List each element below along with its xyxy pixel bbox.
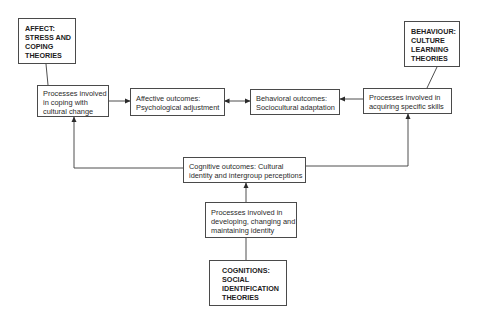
connector-behaviour-skills xyxy=(427,67,437,88)
box-text: BEHAVIOUR: xyxy=(411,27,453,36)
box-text: THEORIES xyxy=(25,51,69,60)
box-text: Processes involved xyxy=(43,89,103,98)
affect-theory-box: AFFECT: STRESS AND COPING THEORIES xyxy=(18,18,76,64)
box-text: CULTURE xyxy=(411,36,453,45)
arrow-cognitive-coping xyxy=(74,117,183,168)
box-text: COGNITIONS: xyxy=(222,266,280,275)
box-text: IDENTIFICATION xyxy=(222,284,280,293)
box-text: THEORIES xyxy=(222,293,280,302)
behavioral-outcome-box: Behavioral outcomes: Sociocultural adapt… xyxy=(250,89,340,115)
box-text: in coping with xyxy=(43,98,103,107)
box-text: COPING xyxy=(25,42,69,51)
box-text: cultural change xyxy=(43,107,103,116)
arrow-cognitive-skills xyxy=(306,114,408,166)
cognitive-outcome-box: Cognitive outcomes: Cultural identity an… xyxy=(183,157,306,183)
box-text: SOCIAL xyxy=(222,275,280,284)
connector-affect-coping xyxy=(46,64,48,85)
box-text: LEARNING xyxy=(411,45,453,54)
box-text: identity and intergroup perceptions xyxy=(189,171,300,180)
box-text: Behavioral outcomes: xyxy=(256,94,334,103)
cognitions-theory-box: COGNITIONS: SOCIAL IDENTIFICATION THEORI… xyxy=(209,260,287,306)
skills-process-box: Processes involved in acquiring specific… xyxy=(363,88,452,114)
box-text: AFFECT: xyxy=(25,24,69,33)
identity-process-box: Processes involved in developing, changi… xyxy=(205,202,297,238)
box-text: Cognitive outcomes: Cultural xyxy=(189,162,300,171)
coping-process-box: Processes involved in coping with cultur… xyxy=(37,85,109,117)
box-text: developing, changing and xyxy=(211,217,291,226)
box-text: maintaining identity xyxy=(211,226,291,235)
behaviour-theory-box: BEHAVIOUR: CULTURE LEARNING THEORIES xyxy=(404,21,460,67)
box-text: STRESS AND xyxy=(25,33,69,42)
box-text: Processes involved in xyxy=(369,93,446,102)
box-text: Affective outcomes: xyxy=(136,94,219,103)
box-text: Psychological adjustment xyxy=(136,103,219,112)
box-text: acquiring specific skills xyxy=(369,102,446,111)
box-text: THEORIES xyxy=(411,54,453,63)
box-text: Processes involved in xyxy=(211,208,291,217)
box-text: Sociocultural adaptation xyxy=(256,103,334,112)
affective-outcome-box: Affective outcomes: Psychological adjust… xyxy=(130,88,225,116)
